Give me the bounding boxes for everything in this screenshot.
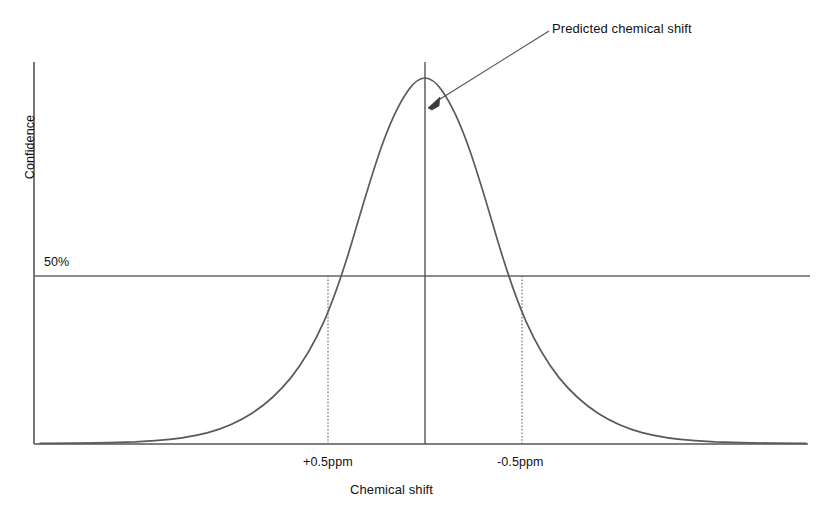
y-axis-label: Confidence <box>23 97 37 197</box>
x-tick-label-minus-half-ppm: -0.5ppm <box>497 455 544 469</box>
annotation-label: Predicted chemical shift <box>552 21 692 36</box>
x-axis-label: Chemical shift <box>350 482 433 497</box>
confidence-curve <box>40 78 806 443</box>
annotation-arrowhead <box>428 97 440 110</box>
x-tick-label-plus-half-ppm: +0.5ppm <box>303 455 353 469</box>
chart-canvas <box>0 0 829 518</box>
chart-figure: Predicted chemical shift Confidence 50% … <box>0 0 829 518</box>
annotation-leader-line <box>437 31 549 101</box>
y-tick-label-50-percent: 50% <box>44 255 69 269</box>
